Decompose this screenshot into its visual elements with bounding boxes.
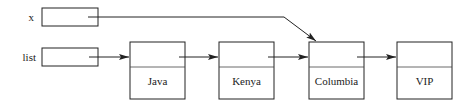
node-kenya-box [219,42,274,99]
node-columbia: Columbia [309,42,364,99]
node-vip-value: VIP [416,75,434,87]
node-kenya-value: Kenya [232,75,261,87]
node-kenya: Kenya [219,42,274,99]
variable-list: list [23,48,98,66]
node-vip-box [397,42,452,99]
node-java: Java [130,42,185,99]
node-vip: VIP [397,42,452,99]
variable-list-label: list [23,51,36,63]
variable-x-label: x [29,11,35,23]
node-columbia-box [309,42,364,99]
linked-list-diagram: x list Java Kenya Columbia VIP [0,0,473,107]
pointer-x-to-columbia [88,17,316,41]
node-java-box [130,42,185,99]
node-java-value: Java [148,75,168,87]
node-columbia-value: Columbia [315,75,359,87]
variable-x: x [29,8,99,26]
